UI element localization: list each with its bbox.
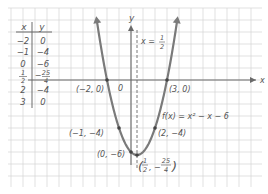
table-cell-x: −1 [17, 47, 30, 57]
table-cell-y-num: 25 [42, 69, 50, 77]
function-label: f(x) = x² − x − 6 [162, 112, 229, 121]
label-point-2-neg4: (2, −4) [158, 129, 186, 138]
label-point-neg1-neg4: (−1, −4) [69, 129, 104, 138]
x-axis-label: x [259, 76, 265, 85]
table-cell-x: 3 [20, 97, 25, 107]
label-point-0-neg6: (0, −6) [97, 150, 125, 159]
data-point [129, 150, 133, 154]
svg-text:2: 2 [160, 43, 164, 51]
svg-text:1: 1 [160, 34, 164, 42]
table-cell-x-den: 2 [21, 77, 25, 85]
symmetry-label: x = [140, 37, 155, 46]
table-cell-y: 0 [40, 97, 45, 107]
graph-paper-grid [8, 8, 262, 187]
table-header-x: x [20, 22, 27, 32]
table-cell-y: 0 [40, 36, 45, 46]
data-point [135, 153, 139, 157]
table-cell-x: 2 [20, 85, 25, 95]
axes: xy0x =12 [28, 13, 265, 168]
svg-text:2: 2 [143, 166, 147, 174]
svg-text:−: − [35, 71, 42, 80]
svg-text:): ) [171, 159, 177, 174]
table-cell-x: −2 [17, 36, 30, 46]
parabola-chart: xy−20−1−40−612−2542−430 xy0x =12 (−2, 0)… [0, 0, 268, 194]
table-cell-y: −4 [37, 85, 50, 95]
table-cell-y: −4 [37, 47, 50, 57]
data-point [165, 78, 169, 82]
table-cell-y: −6 [37, 59, 50, 69]
table-cell-y-den: 4 [44, 77, 48, 85]
svg-text:25: 25 [162, 157, 170, 165]
table-cell-x: 0 [20, 59, 25, 69]
data-point [105, 78, 109, 82]
xy-value-table: xy−20−1−40−612−2542−430 [16, 22, 52, 108]
svg-text:1: 1 [143, 157, 147, 165]
svg-text:4: 4 [164, 166, 168, 174]
svg-text:, −: , − [149, 163, 161, 172]
point-labels: (−2, 0)(3, 0)(−1, −4)(2, −4)(0, −6)f(x) … [69, 85, 229, 174]
table-cell-x-num: 1 [21, 69, 25, 77]
origin-label: 0 [118, 84, 123, 93]
y-axis-label: y [128, 13, 135, 23]
data-point [117, 126, 121, 130]
label-point-neg2-0: (−2, 0) [76, 85, 104, 94]
table-header-y: y [38, 22, 45, 32]
data-point [153, 126, 157, 130]
label-point-3-0: (3, 0) [169, 85, 191, 94]
